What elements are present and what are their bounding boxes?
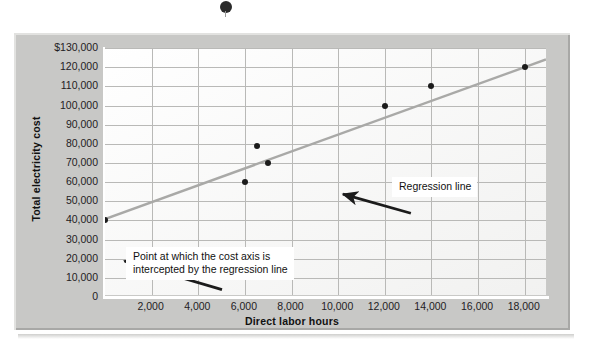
y-axis-tick-label: $130,000 xyxy=(20,42,98,52)
chart-figure-panel: $130,000120,000110,000100,00090,00080,00… xyxy=(14,33,570,330)
intercept-callout: Point at which the cost axis is intercep… xyxy=(126,247,294,280)
panel-drop-shadow xyxy=(18,334,574,339)
y-axis-tick-label: 120,000 xyxy=(20,61,98,71)
x-axis-title: Direct labor hours xyxy=(14,315,570,327)
gridline-horizontal xyxy=(105,86,546,87)
gridline-horizontal xyxy=(105,67,546,68)
x-axis-tick-label: 18,000 xyxy=(494,301,554,312)
y-axis-tick-label: 10,000 xyxy=(20,272,98,282)
y-axis-tick-label: 0 xyxy=(20,291,98,301)
intercept-callout-line1: Point at which the cost axis is xyxy=(133,250,288,263)
gridline-horizontal xyxy=(105,220,546,221)
y-axis-tick-labels: $130,000120,000110,000100,00090,00080,00… xyxy=(14,33,98,330)
scan-artifact-stem xyxy=(225,11,226,17)
x-axis-line xyxy=(103,296,549,299)
data-point xyxy=(382,103,388,109)
scan-artifact-mark xyxy=(219,0,233,16)
data-point xyxy=(522,64,528,70)
y-axis-tick-label: 110,000 xyxy=(20,80,98,90)
intercept-callout-line2: intercepted by the regression line xyxy=(133,263,288,276)
data-point xyxy=(265,160,271,166)
gridline-horizontal xyxy=(105,106,546,107)
data-point xyxy=(428,83,434,89)
y-axis-line xyxy=(103,47,105,298)
scan-artifact-dot xyxy=(220,1,232,13)
regression-line-callout: Regression line xyxy=(392,177,477,197)
y-axis-title: Total electricity cost xyxy=(30,99,42,239)
gridline-horizontal xyxy=(105,201,546,202)
gridline-horizontal xyxy=(105,144,546,145)
gridline-horizontal xyxy=(105,182,546,183)
data-point xyxy=(254,143,260,149)
gridline-horizontal xyxy=(105,240,546,241)
data-point xyxy=(242,179,248,185)
gridline-horizontal xyxy=(105,163,546,164)
y-axis-tick-label: 20,000 xyxy=(20,253,98,263)
gridline-horizontal xyxy=(105,48,546,49)
gridline-horizontal xyxy=(105,125,546,126)
